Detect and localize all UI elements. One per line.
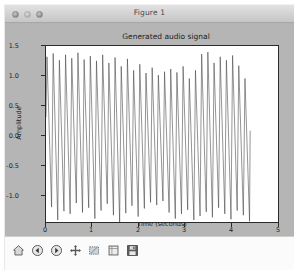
y-tick-label: -1.0 (4, 192, 19, 200)
zoom-rect-icon (88, 244, 101, 257)
save-button[interactable] (124, 242, 141, 259)
chart-title: Generated audio signal (49, 32, 283, 41)
waveform-plot (46, 46, 278, 222)
audio-signal-line (46, 52, 250, 222)
move-cross-icon (69, 244, 82, 257)
plot-axes[interactable] (45, 45, 279, 223)
window-title: Figure 1 (5, 8, 294, 17)
forward-arrow-icon (50, 244, 63, 257)
y-tick-label: 0.0 (4, 132, 19, 140)
home-icon (12, 244, 25, 257)
figure-canvas: Generated audio signal Amplitude 1.5 1.0… (5, 24, 294, 236)
pan-button[interactable] (67, 242, 84, 259)
forward-button[interactable] (48, 242, 65, 259)
matplotlib-toolbar (5, 236, 294, 270)
y-tick-label: 1.0 (4, 72, 19, 80)
sliders-icon (107, 244, 120, 257)
figure-window: Figure 1 Generated audio signal Amplitud… (4, 4, 294, 270)
home-button[interactable] (10, 242, 27, 259)
subplots-button[interactable] (105, 242, 122, 259)
y-tick-label: 1.5 (4, 42, 19, 50)
zoom-button[interactable] (86, 242, 103, 259)
back-button[interactable] (29, 242, 46, 259)
y-tick-label: 0.5 (4, 102, 19, 110)
back-arrow-icon (31, 244, 44, 257)
floppy-save-icon (126, 244, 139, 257)
y-tick-label: -0.5 (4, 162, 19, 170)
window-titlebar[interactable]: Figure 1 (5, 5, 294, 23)
